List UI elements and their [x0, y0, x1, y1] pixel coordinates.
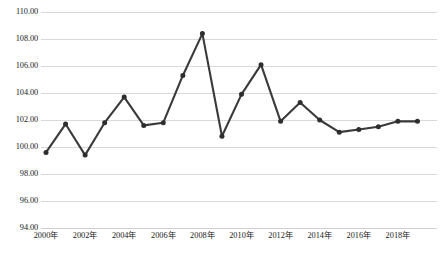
data-series-line: [41, 12, 437, 228]
data-point-marker: [415, 119, 420, 124]
x-axis-tick-label: 2006年: [151, 230, 176, 241]
data-point-marker: [395, 119, 400, 124]
data-point-marker: [219, 134, 224, 139]
data-point-marker: [44, 150, 49, 155]
y-axis-tick-label: 108.00: [0, 34, 38, 43]
y-axis-tick-label: 104.00: [0, 88, 38, 97]
data-point-marker: [317, 118, 322, 123]
x-axis-tick-label: 2018年: [386, 230, 411, 241]
y-axis-tick-label: 98.00: [0, 169, 38, 178]
x-axis-tick-label: 2014年: [307, 230, 332, 241]
data-point-marker: [122, 95, 127, 100]
data-point-marker: [141, 123, 146, 128]
x-axis-tick-label: 2008年: [190, 230, 215, 241]
data-point-marker: [63, 122, 68, 127]
x-axis-tick-label: 2002年: [73, 230, 98, 241]
x-axis-tick-label: 2010年: [229, 230, 254, 241]
plot-area: [41, 12, 437, 228]
y-axis-tick-label: 110.00: [0, 7, 38, 16]
data-point-marker: [376, 124, 381, 129]
data-point-marker: [102, 120, 107, 125]
series-polyline: [46, 34, 417, 156]
figure-caption: [58, 250, 388, 261]
y-axis-tick-label: 106.00: [0, 61, 38, 70]
x-axis-tick-label: 2016年: [347, 230, 372, 241]
x-axis-tick-label: 2012年: [268, 230, 293, 241]
y-axis-tick-label: 100.00: [0, 142, 38, 151]
data-point-marker: [259, 62, 264, 67]
x-axis-tick-label: 2000年: [34, 230, 59, 241]
line-chart: 110.00108.00106.00104.00102.00100.0098.0…: [0, 0, 448, 261]
data-point-marker: [239, 92, 244, 97]
x-axis-tick-label: 2004年: [112, 230, 137, 241]
gridline: [41, 228, 437, 229]
y-axis-tick-labels: 110.00108.00106.00104.00102.00100.0098.0…: [0, 0, 38, 261]
data-point-marker: [180, 73, 185, 78]
y-axis-tick-label: 102.00: [0, 115, 38, 124]
data-point-marker: [83, 153, 88, 158]
data-point-marker: [161, 120, 166, 125]
y-axis-tick-label: 96.00: [0, 196, 38, 205]
data-point-marker: [298, 100, 303, 105]
data-point-marker: [337, 130, 342, 135]
data-point-marker: [278, 119, 283, 124]
data-point-marker: [200, 31, 205, 36]
data-point-marker: [356, 127, 361, 132]
x-axis-tick-labels: 2000年2002年2004年2006年2008年2010年2012年2014年…: [0, 230, 448, 244]
